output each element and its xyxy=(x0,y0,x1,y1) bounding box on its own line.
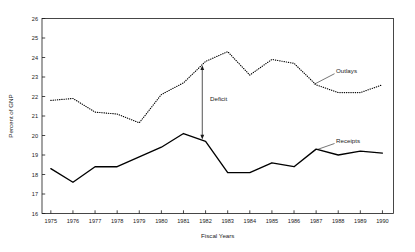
y-tick-label: 26 xyxy=(32,16,38,22)
y-tick-label: 23 xyxy=(32,74,38,80)
x-tick-label: 1976 xyxy=(67,218,79,224)
gnp-line-chart: 1617181920212223242526 19751976197719781… xyxy=(0,0,415,252)
x-tick-label: 1989 xyxy=(354,218,366,224)
deficit-annotation-label: Deficit xyxy=(210,95,227,102)
x-tick-label: 1986 xyxy=(288,218,300,224)
x-tick-label: 1981 xyxy=(177,218,189,224)
x-tick-label: 1977 xyxy=(89,218,101,224)
y-tick-label: 21 xyxy=(32,113,38,119)
x-tick-label: 1985 xyxy=(266,218,278,224)
x-tick-label: 1990 xyxy=(376,218,388,224)
y-axis-title: Percent of GNP xyxy=(7,94,14,137)
x-tick-label: 1978 xyxy=(111,218,123,224)
x-tick-label: 1988 xyxy=(332,218,344,224)
x-tick-label: 1983 xyxy=(221,218,233,224)
y-tick-label: 25 xyxy=(32,35,38,41)
y-tick-label: 19 xyxy=(32,152,38,158)
y-tick-label: 18 xyxy=(32,172,38,178)
x-tick-label: 1987 xyxy=(310,218,322,224)
x-tick-label: 1984 xyxy=(244,218,256,224)
x-axis-title: Fiscal Years xyxy=(201,232,234,239)
chart-figure: 1617181920212223242526 19751976197719781… xyxy=(0,0,415,252)
x-tick-label: 1979 xyxy=(133,218,145,224)
chart-background xyxy=(0,0,415,252)
x-tick-label: 1982 xyxy=(199,218,211,224)
x-tick-label: 1980 xyxy=(155,218,167,224)
y-tick-label: 24 xyxy=(32,55,38,61)
y-tick-label: 17 xyxy=(32,191,38,197)
y-tick-label: 20 xyxy=(32,133,38,139)
y-tick-label: 16 xyxy=(32,211,38,217)
series-label-receipts: Receipts xyxy=(336,137,360,144)
y-tick-label: 22 xyxy=(32,94,38,100)
x-tick-label: 1975 xyxy=(45,218,57,224)
series-label-outlays: Outlays xyxy=(336,67,357,74)
